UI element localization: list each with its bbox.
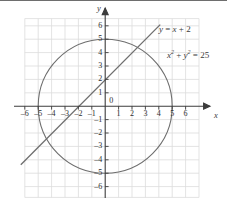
y-tick-label: –1 (84, 115, 102, 124)
y-tick-label: 1 (84, 88, 102, 97)
x-axis-arrow (204, 103, 210, 109)
y-tick-label: –4 (84, 155, 102, 164)
y-tick-label: 3 (84, 61, 102, 70)
figure-graph-circle-line: y x y = x + 2 x2 + y2 = 25 –6–5–4–3–2–10… (0, 0, 227, 206)
y-axis-label: y (97, 3, 101, 13)
y-tick-label: –2 (84, 128, 102, 137)
y-tick-label: –3 (84, 141, 102, 150)
y-tick-label: 2 (84, 74, 102, 83)
y-tick-label: 5 (84, 34, 102, 43)
y-tick-label: –6 (84, 182, 102, 191)
annotation-line-equation: y = x + 2 (159, 24, 191, 34)
coordinate-plane-svg (0, 0, 227, 206)
y-axis-arrow (102, 8, 108, 15)
annotation-circle-equation: x2 + y2 = 25 (167, 50, 209, 60)
y-tick-label: 6 (84, 21, 102, 30)
x-tick-label: 0 (95, 96, 113, 105)
x-tick-label: 6 (177, 109, 195, 118)
y-tick-label: –5 (84, 168, 102, 177)
y-tick-label: 4 (84, 48, 102, 57)
x-axis-label: x (214, 110, 218, 120)
grid-lines (25, 19, 199, 198)
